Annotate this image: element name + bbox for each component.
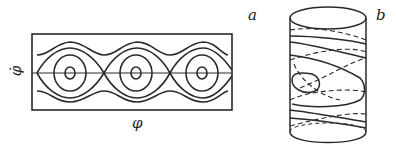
panel-a-label: a <box>248 6 257 24</box>
x-axis-label: φ <box>132 114 143 132</box>
panel-b: b <box>280 0 396 151</box>
phase-portrait-plane <box>0 0 240 151</box>
panel-b-label: b <box>376 6 386 24</box>
panel-a: φ̇ φ a <box>0 0 240 151</box>
y-axis-label: φ̇ <box>7 66 25 77</box>
